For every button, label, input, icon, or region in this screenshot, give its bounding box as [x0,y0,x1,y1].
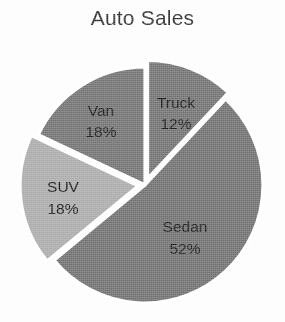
slice-label-sedan: Sedan [163,218,208,235]
slice-label-suv: SUV [47,178,80,195]
slice-label-truck: Truck [157,94,195,111]
pie-chart-figure: Auto Sales Truck12%Sedan52%SUV18%Van18% [0,0,285,322]
slice-value-sedan: 52% [169,240,200,257]
slice-value-van: 18% [85,123,116,140]
slice-value-suv: 18% [47,200,78,217]
slice-label-van: Van [88,102,114,119]
pie-chart-canvas: Truck12%Sedan52%SUV18%Van18% [0,0,285,322]
slice-value-truck: 12% [160,115,191,132]
